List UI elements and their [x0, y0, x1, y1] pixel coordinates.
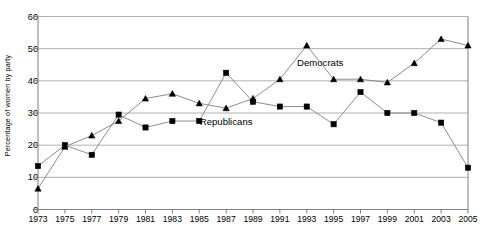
- marker-square-republicans: [116, 112, 121, 117]
- marker-square-republicans: [197, 118, 202, 123]
- marker-square-republicans: [385, 110, 390, 115]
- marker-square-republicans: [412, 110, 417, 115]
- marker-square-republicans: [89, 152, 94, 157]
- series-line-democrats: [38, 39, 468, 189]
- marker-triangle-democrats: [169, 91, 175, 97]
- plot-area: [0, 0, 485, 243]
- marker-square-republicans: [465, 165, 470, 170]
- marker-triangle-democrats: [196, 100, 202, 106]
- marker-triangle-democrats: [304, 42, 310, 48]
- marker-triangle-democrats: [250, 95, 256, 101]
- chart-container: Percentage of women by party 01020304050…: [0, 0, 485, 243]
- marker-square-republicans: [224, 70, 229, 75]
- marker-square-republicans: [439, 120, 444, 125]
- marker-square-republicans: [35, 163, 40, 168]
- marker-triangle-democrats: [35, 185, 41, 191]
- marker-square-republicans: [304, 104, 309, 109]
- marker-square-republicans: [143, 125, 148, 130]
- series-line-republicans: [38, 73, 468, 168]
- marker-triangle-democrats: [438, 36, 444, 42]
- marker-square-republicans: [358, 89, 363, 94]
- marker-square-republicans: [170, 118, 175, 123]
- marker-square-republicans: [331, 122, 336, 127]
- marker-square-republicans: [277, 104, 282, 109]
- marker-triangle-democrats: [89, 132, 95, 138]
